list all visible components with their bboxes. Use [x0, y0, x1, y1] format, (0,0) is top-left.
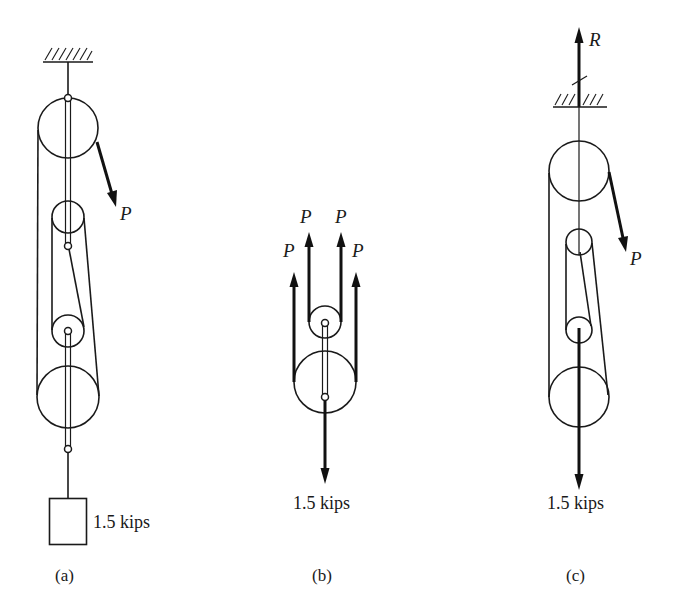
pulley-figure: P 1.5 kips (a) P P P P 1.5 kips (b) R P …	[0, 0, 674, 611]
caption-c: (c)	[566, 567, 585, 584]
pin-upper-b	[322, 320, 329, 327]
pin-lower-b	[322, 394, 329, 401]
load-label-a: 1.5 kips	[93, 513, 150, 531]
upper-link-bar-a	[66, 100, 71, 243]
weight-block-a	[50, 499, 87, 545]
cables-a	[37, 130, 99, 396]
lower-link-bar-a	[66, 334, 71, 446]
lower-large-pulley-a	[37, 366, 99, 428]
reaction-label-r-c: R	[589, 30, 601, 49]
force-label-p-b-outer-right: P	[352, 241, 364, 260]
upper-large-pulley-a	[38, 98, 98, 158]
pin-lower-a	[65, 328, 72, 335]
force-label-p-a: P	[120, 204, 132, 223]
load-arrow-c	[575, 328, 584, 490]
panel-c	[549, 27, 628, 490]
force-arrow-p-a	[97, 142, 117, 207]
panel-a	[37, 48, 117, 545]
ceiling-support-a	[43, 48, 93, 62]
pin-bottom-a	[65, 446, 72, 453]
pin-upper-a	[65, 243, 72, 250]
pin-top-a	[65, 95, 72, 102]
caption-b: (b)	[312, 567, 332, 584]
inner-cable-arrows-b	[305, 232, 346, 322]
force-label-p-b-outer-left: P	[283, 241, 295, 260]
link-bar-b	[323, 326, 328, 394]
caption-a: (a)	[55, 567, 74, 584]
force-label-p-b-inner-left: P	[300, 207, 312, 226]
force-label-p-c: P	[630, 249, 642, 268]
panel-b	[290, 232, 361, 484]
force-label-p-b-inner-right: P	[335, 207, 347, 226]
upper-small-pulley-a	[52, 201, 84, 233]
load-label-b: 1.5 kips	[293, 494, 350, 512]
force-arrow-p-c	[609, 172, 628, 252]
load-label-c: 1.5 kips	[547, 494, 604, 512]
